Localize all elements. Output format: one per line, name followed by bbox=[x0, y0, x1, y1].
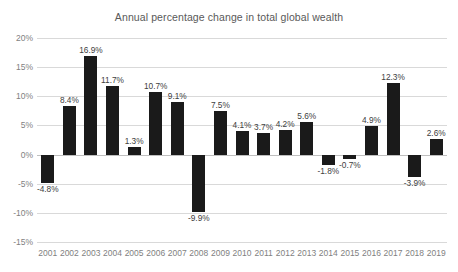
y-axis-tick-label: 0% bbox=[21, 150, 33, 160]
x-axis-tick-label: 2010 bbox=[233, 248, 252, 258]
x-axis-tick-label: 2014 bbox=[319, 248, 338, 258]
y-axis-tick-label: -10% bbox=[13, 208, 33, 218]
x-axis-tick-label: 2012 bbox=[276, 248, 295, 258]
bar bbox=[343, 155, 356, 159]
zero-line bbox=[37, 155, 447, 156]
bar-value-label: 4.2% bbox=[276, 119, 295, 129]
bar-value-label: 3.7% bbox=[254, 122, 273, 132]
x-axis-tick-label: 2016 bbox=[362, 248, 381, 258]
bar-value-label: 4.1% bbox=[233, 120, 252, 130]
bar-value-label: 2.6% bbox=[427, 128, 446, 138]
x-axis-tick-label: 2011 bbox=[254, 248, 272, 258]
bar bbox=[106, 86, 119, 154]
bar-value-label: -9.9% bbox=[188, 213, 210, 223]
bar-value-label: 5.6% bbox=[297, 111, 316, 121]
x-axis-tick-label: 2017 bbox=[384, 248, 403, 258]
bar bbox=[322, 155, 335, 165]
bar bbox=[257, 133, 270, 155]
gridline bbox=[37, 213, 447, 214]
x-axis-tick-label: 2004 bbox=[103, 248, 122, 258]
gridline bbox=[37, 96, 447, 97]
x-axis-tick-label: 2007 bbox=[168, 248, 187, 258]
bar-value-label: 9.1% bbox=[168, 91, 187, 101]
bar bbox=[149, 92, 162, 154]
x-axis-tick-label: 2002 bbox=[60, 248, 79, 258]
x-axis-tick-label: 2003 bbox=[81, 248, 100, 258]
bar-value-label: 12.3% bbox=[381, 72, 405, 82]
bar-value-label: 8.4% bbox=[60, 95, 79, 105]
bar-chart: Annual percentage change in total global… bbox=[0, 0, 458, 272]
x-axis-tick-label: 2006 bbox=[146, 248, 165, 258]
bar-value-label: 10.7% bbox=[144, 81, 168, 91]
bar bbox=[84, 56, 97, 155]
x-axis-labels: 2001200220032004200520062007200820092010… bbox=[37, 248, 447, 262]
y-axis-tick-label: -5% bbox=[18, 179, 33, 189]
x-axis-tick-label: 2019 bbox=[427, 248, 446, 258]
chart-title: Annual percentage change in total global… bbox=[0, 11, 458, 23]
bar bbox=[387, 83, 400, 155]
x-axis-tick-label: 2013 bbox=[297, 248, 316, 258]
x-axis-tick-label: 2018 bbox=[405, 248, 424, 258]
x-axis-tick-label: 2015 bbox=[340, 248, 359, 258]
gridline bbox=[37, 38, 447, 39]
x-axis-tick-label: 2009 bbox=[211, 248, 230, 258]
bar bbox=[408, 155, 421, 178]
bar-value-label: 7.5% bbox=[211, 100, 230, 110]
gridline bbox=[37, 67, 447, 68]
y-axis-tick-label: 15% bbox=[16, 62, 33, 72]
bar bbox=[192, 155, 205, 213]
y-axis-tick-label: 5% bbox=[21, 120, 33, 130]
y-axis-tick-label: 20% bbox=[16, 33, 33, 43]
bar bbox=[279, 130, 292, 154]
bar-value-label: 16.9% bbox=[79, 45, 103, 55]
x-axis-tick-label: 2005 bbox=[125, 248, 144, 258]
bar bbox=[41, 155, 54, 183]
bar bbox=[214, 111, 227, 155]
gridline bbox=[37, 242, 447, 243]
x-axis-tick-label: 2001 bbox=[38, 248, 57, 258]
bar-value-label: 11.7% bbox=[101, 75, 124, 85]
bar bbox=[430, 139, 443, 154]
y-axis-tick-label: 10% bbox=[16, 91, 33, 101]
bar bbox=[171, 102, 184, 155]
bar-value-label: 1.3% bbox=[125, 136, 144, 146]
bar-value-label: -1.8% bbox=[317, 166, 339, 176]
bar bbox=[300, 122, 313, 155]
gridline bbox=[37, 184, 447, 185]
bar bbox=[365, 126, 378, 155]
y-axis-labels: 20%15%10%5%0%-5%-10%-15% bbox=[0, 38, 33, 242]
y-axis-tick-label: -15% bbox=[13, 237, 33, 247]
bar bbox=[128, 147, 141, 155]
bar bbox=[236, 131, 249, 155]
bar bbox=[63, 106, 76, 155]
bar-value-label: -0.7% bbox=[339, 160, 361, 170]
plot-area: -4.8%8.4%16.9%11.7%1.3%10.7%9.1%-9.9%7.5… bbox=[37, 38, 447, 242]
x-axis-tick-label: 2008 bbox=[189, 248, 208, 258]
bar-value-label: -3.9% bbox=[404, 178, 426, 188]
bar-value-label: 4.9% bbox=[362, 115, 381, 125]
bar-value-label: -4.8% bbox=[37, 184, 59, 194]
